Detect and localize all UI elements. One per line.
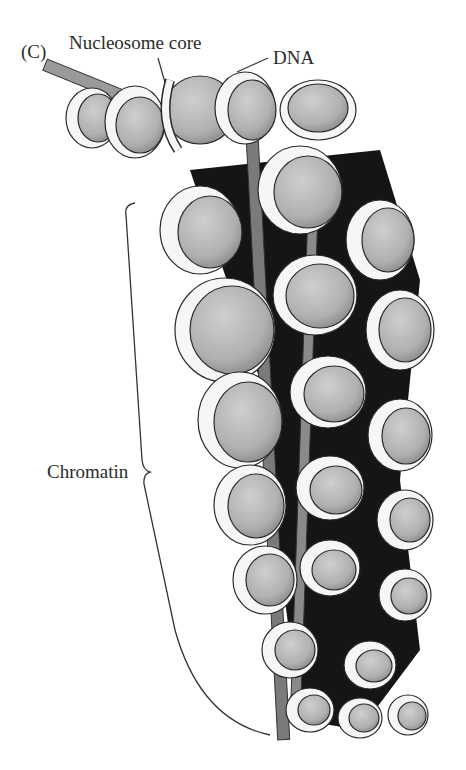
dna-leader-line <box>237 58 268 72</box>
chromatin-fiber-illustration <box>0 0 466 770</box>
